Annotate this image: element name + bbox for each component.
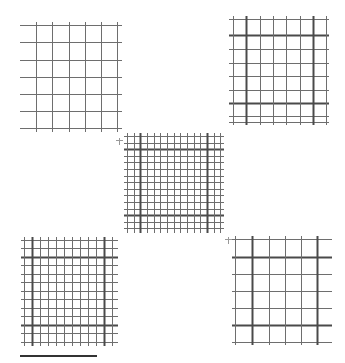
grid-pattern — [20, 25, 122, 129]
grid-pattern — [124, 136, 224, 230]
grid-panel-center — [124, 136, 224, 230]
grid-panel-top-right — [229, 19, 329, 122]
crosshair-marker-icon — [116, 130, 123, 149]
grid-panel-bottom-right — [232, 239, 332, 342]
grid-panel-bottom-left — [21, 240, 118, 343]
grid-panel-top-left — [20, 25, 122, 129]
grid-pattern — [232, 239, 332, 342]
scale-bar — [20, 355, 97, 357]
grid-pattern — [21, 240, 118, 343]
grid-pattern — [229, 19, 329, 122]
crosshair-marker-icon — [225, 229, 232, 248]
